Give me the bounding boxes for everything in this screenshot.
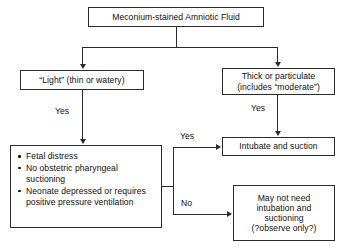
node-maynot-line2: intubation and bbox=[257, 203, 312, 213]
node-root-label: Meconium-stained Amniotic Fluid bbox=[112, 12, 240, 22]
node-maynot-label: May not needintubation andsuctioning(?ob… bbox=[252, 193, 317, 234]
criteria-bullet-list: Fetal distress No obstetric pharyngeal s… bbox=[17, 151, 157, 208]
edge-light-to-criteria bbox=[82, 90, 83, 140]
edge-bus-to-light bbox=[82, 47, 83, 65]
list-item: Fetal distress bbox=[17, 151, 157, 162]
edge-label-thick-yes: Yes bbox=[251, 103, 265, 113]
node-meconium-stained-amniotic-fluid: Meconium-stained Amniotic Fluid bbox=[88, 7, 264, 27]
node-intubate-and-suction: Intubate and suction bbox=[222, 137, 335, 156]
node-may-not-need-intubation: May not needintubation andsuctioning(?ob… bbox=[233, 185, 335, 241]
arrowhead-to-thick bbox=[275, 62, 281, 67]
edge-criteria-yes bbox=[173, 147, 217, 148]
flowchart-canvas: Meconium-stained Amniotic Fluid “Light” … bbox=[0, 0, 343, 248]
edge-root-bus bbox=[82, 47, 277, 48]
edge-criteria-no bbox=[173, 214, 228, 215]
edge-bus-to-thick bbox=[277, 47, 278, 63]
node-thick-label: Thick or particulate(includes “moderate”… bbox=[237, 71, 320, 91]
node-thick-line1: Thick or particulate bbox=[242, 71, 316, 81]
node-maynot-line1: May not need bbox=[258, 193, 311, 203]
edge-root-stem bbox=[176, 27, 177, 47]
node-thick-or-particulate: Thick or particulate(includes “moderate”… bbox=[222, 68, 335, 95]
arrowhead-criteria-no bbox=[227, 211, 232, 217]
node-light-thin-or-watery: “Light” (thin or watery) bbox=[20, 70, 144, 90]
node-maynot-line3: suctioning bbox=[264, 213, 303, 223]
edge-label-criteria-no: No bbox=[181, 198, 192, 208]
edge-criteria-junction bbox=[173, 147, 174, 215]
arrowhead-to-criteria bbox=[80, 139, 86, 144]
node-criteria-list: Fetal distress No obstetric pharyngeal s… bbox=[10, 145, 162, 228]
arrowhead-to-intubate bbox=[275, 131, 281, 136]
arrowhead-to-light bbox=[80, 64, 86, 69]
edge-thick-to-intubate bbox=[277, 95, 278, 132]
edge-label-light-yes: Yes bbox=[55, 106, 69, 116]
arrowhead-criteria-yes bbox=[216, 144, 221, 150]
node-maynot-line4: (?observe only?) bbox=[252, 223, 317, 233]
node-light-label: “Light” (thin or watery) bbox=[39, 75, 124, 85]
node-intubate-label: Intubate and suction bbox=[239, 141, 317, 151]
edge-label-criteria-yes: Yes bbox=[180, 131, 194, 141]
node-thick-line2: (includes “moderate”) bbox=[237, 82, 320, 92]
edge-criteria-out bbox=[162, 186, 173, 187]
list-item: No obstetric pharyngeal suctioning bbox=[17, 163, 157, 185]
list-item: Neonate depressed or requires positive p… bbox=[17, 186, 157, 208]
